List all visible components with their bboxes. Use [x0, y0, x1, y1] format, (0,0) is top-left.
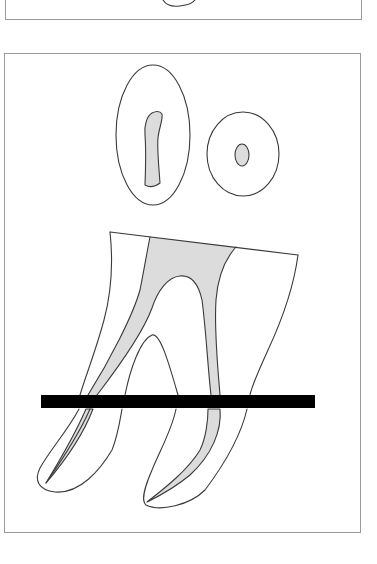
distal-root-outer [250, 255, 298, 395]
section-line-bar [41, 395, 315, 408]
pulp-chamber [88, 237, 236, 395]
tooth-diagram [0, 0, 377, 564]
round-canal [235, 144, 249, 166]
oval-canal [145, 112, 162, 187]
top-panel-curve [163, 0, 195, 6]
